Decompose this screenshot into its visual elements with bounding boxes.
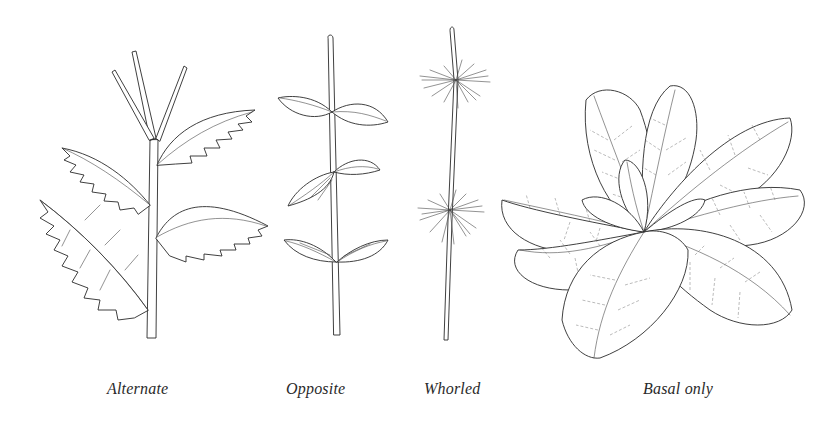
caption-alternate: Alternate — [107, 380, 168, 398]
panel-whorled — [410, 0, 500, 370]
caption-opposite: Opposite — [286, 380, 345, 398]
basal-rosette-illustration — [490, 0, 826, 370]
caption-basal-only: Basal only — [643, 380, 713, 398]
panel-opposite — [270, 0, 410, 370]
caption-whorled: Whorled — [424, 380, 481, 398]
alternate-illustration — [0, 0, 270, 370]
whorled-illustration — [410, 0, 500, 370]
panel-alternate — [0, 0, 270, 370]
panel-basal — [490, 0, 826, 370]
leaf-arrangement-diagram: Alternate Opposite Whorled Basal only — [0, 0, 826, 425]
opposite-illustration — [270, 0, 410, 370]
